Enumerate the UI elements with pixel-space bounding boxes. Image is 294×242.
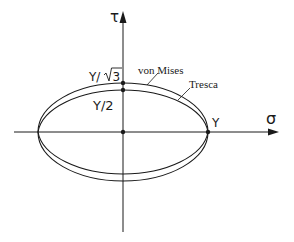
- yield-point-y: [206, 130, 210, 134]
- tresca-label: Tresca: [189, 78, 218, 90]
- y-label: Y: [211, 116, 220, 130]
- tau-axis-arrow-icon: [120, 11, 127, 23]
- tau-axis-label: τ: [110, 8, 119, 26]
- root3-digit: 3: [113, 70, 121, 84]
- y-over-root3-label: Y/: [88, 70, 101, 84]
- von-mises-tau-point: [121, 81, 125, 85]
- sigma-axis-arrow-icon: [268, 129, 279, 136]
- von-mises-label: von Mises: [138, 64, 184, 76]
- tresca-tau-point: [121, 88, 125, 92]
- y-over-2-label: Y/2: [92, 98, 114, 113]
- sigma-axis-label: σ: [266, 109, 276, 128]
- origin-point: [121, 130, 125, 134]
- y-over-root3-prefix: Y/: [88, 70, 101, 84]
- yield-criteria-diagram: τ σ von Mises Tresca Y/ 3 Y/2 Y: [0, 0, 294, 242]
